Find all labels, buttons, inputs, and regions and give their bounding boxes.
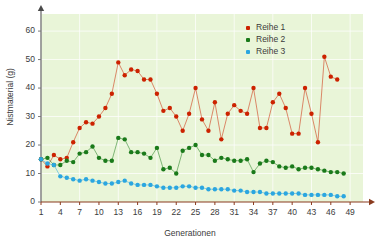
x-tick-label: 4 (52, 208, 68, 217)
legend-label-reihe-1: Reihe 1 (256, 22, 285, 33)
x-tick-label: 22 (168, 208, 184, 217)
y-tick-label: 10 (11, 169, 35, 178)
legend-label-reihe-3: Reihe 3 (256, 46, 285, 57)
legend-swatch-reihe-3 (246, 50, 250, 54)
y-axis-title: Nistmaterial (g) (5, 54, 15, 140)
x-tick-label: 43 (303, 208, 319, 217)
x-tick-label: 37 (265, 208, 281, 217)
chart-legend: Reihe 1 Reihe 2 Reihe 3 (246, 22, 285, 58)
x-tick-label: 19 (149, 208, 165, 217)
x-tick-label: 34 (246, 208, 262, 217)
legend-item-reihe-1[interactable]: Reihe 1 (246, 22, 285, 33)
legend-swatch-reihe-1 (246, 26, 250, 30)
y-tick-label: 60 (11, 26, 35, 35)
y-tick-label: 0 (11, 197, 35, 206)
x-tick-label: 1 (33, 208, 49, 217)
x-tick-label: 31 (226, 208, 242, 217)
x-tick-label: 25 (188, 208, 204, 217)
x-tick-label: 40 (284, 208, 300, 217)
x-tick-label: 7 (72, 208, 88, 217)
legend-item-reihe-2[interactable]: Reihe 2 (246, 34, 285, 45)
legend-item-reihe-3[interactable]: Reihe 3 (246, 46, 285, 57)
legend-label-reihe-2: Reihe 2 (256, 34, 285, 45)
y-tick-label: 20 (11, 140, 35, 149)
plot-area-background (41, 14, 363, 202)
x-tick-label: 10 (91, 208, 107, 217)
chart-container: 0102030405060 14710131619222528313437404… (0, 0, 378, 240)
x-tick-label: 28 (207, 208, 223, 217)
x-tick-label: 13 (110, 208, 126, 217)
legend-swatch-reihe-2 (246, 38, 250, 42)
x-tick-label: 16 (130, 208, 146, 217)
x-tick-label: 49 (342, 208, 358, 217)
x-tick-label: 46 (323, 208, 339, 217)
x-axis-title: Generationen (120, 228, 260, 238)
